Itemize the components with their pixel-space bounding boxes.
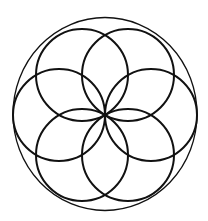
petal-circles [13,29,197,201]
seed-of-life-diagram [0,0,208,221]
